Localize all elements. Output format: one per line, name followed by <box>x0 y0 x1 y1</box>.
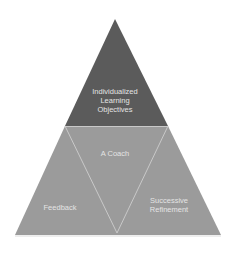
label-a-coach: A Coach <box>85 149 145 158</box>
pyramid-bottom-section <box>15 126 221 235</box>
label-successive-refinement: Successive Refinement <box>136 196 202 214</box>
pyramid-diagram <box>0 0 236 253</box>
label-individualized-learning-objectives: Individualized Learning Objectives <box>75 87 155 114</box>
label-feedback: Feedback <box>30 203 90 212</box>
